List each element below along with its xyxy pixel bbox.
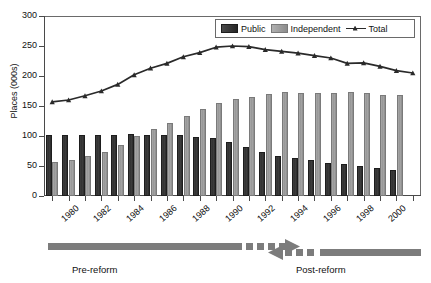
x-tick-1994 <box>298 196 299 201</box>
x-tick-label-1994: 1994 <box>288 203 310 224</box>
legend-line-total-icon <box>346 25 366 33</box>
pre-reform-dash-3 <box>268 243 275 250</box>
x-tick-1992 <box>265 196 266 201</box>
pre-reform-label: Pre-reform <box>72 264 117 275</box>
legend-item-public: Public <box>221 24 266 34</box>
x-tick-label-1980: 1980 <box>59 203 81 224</box>
x-tick-1998 <box>364 196 365 201</box>
y-tick-label: 200 <box>22 70 37 81</box>
x-tick-1983 <box>118 196 119 201</box>
x-tick-1986 <box>167 196 168 201</box>
x-tick-1995 <box>314 196 315 201</box>
legend-label-independent: Independent <box>291 24 341 34</box>
x-tick-1980 <box>69 196 70 201</box>
x-tick-1982 <box>101 196 102 201</box>
x-tick-label-1998: 1998 <box>354 203 376 224</box>
pre-reform-dash-2 <box>257 243 264 250</box>
x-tick-1984 <box>134 196 135 201</box>
total-line-layer <box>44 16 421 196</box>
x-tick-label-1992: 1992 <box>255 203 277 224</box>
x-tick-label-1986: 1986 <box>157 203 179 224</box>
y-tick-label: 100 <box>22 130 37 141</box>
x-tick-1996 <box>331 196 332 201</box>
chart-figure: Places (000s) 050100150200250300 1980198… <box>0 0 431 283</box>
pre-reform-dash-4 <box>279 243 285 250</box>
post-reform-solid-bar <box>320 249 421 256</box>
x-tick-1979 <box>52 196 53 201</box>
y-tick-label: 300 <box>22 10 37 21</box>
x-tick-1985 <box>151 196 152 201</box>
pre-reform-arrowhead-icon <box>285 239 300 254</box>
y-tick-label: 50 <box>27 160 37 171</box>
x-tick-1987 <box>183 196 184 201</box>
pre-reform-solid-bar <box>48 243 242 250</box>
total-line-svg <box>44 16 421 196</box>
x-tick-2000 <box>396 196 397 201</box>
legend-item-total: Total <box>346 24 388 34</box>
post-reform-dash-2 <box>296 249 303 256</box>
x-tick-label-1996: 1996 <box>321 203 343 224</box>
y-axis-title: Places (000s) <box>9 46 19 136</box>
legend-swatch-independent-icon <box>271 24 288 33</box>
x-tick-label-1982: 1982 <box>91 203 113 224</box>
x-tick-2001 <box>413 196 414 201</box>
total-line-path <box>52 46 413 102</box>
post-reform-dash-3 <box>307 249 314 256</box>
x-tick-1993 <box>282 196 283 201</box>
x-tick-label-1990: 1990 <box>223 203 245 224</box>
x-tick-1989 <box>216 196 217 201</box>
x-tick-1990 <box>233 196 234 201</box>
y-tick-label: 0 <box>32 190 37 201</box>
x-tick-label-1984: 1984 <box>124 203 146 224</box>
post-reform-dash-1 <box>285 249 292 256</box>
pre-reform-dash-1 <box>246 243 253 250</box>
chart-legend: Public Independent Total <box>215 19 415 38</box>
x-tick-1997 <box>347 196 348 201</box>
x-tick-1988 <box>200 196 201 201</box>
x-tick-label-1988: 1988 <box>190 203 212 224</box>
legend-label-public: Public <box>241 24 266 34</box>
legend-swatch-public-icon <box>221 24 238 33</box>
post-reform-label: Post-reform <box>296 264 346 275</box>
y-tick-label: 250 <box>22 40 37 51</box>
x-tick-1991 <box>249 196 250 201</box>
x-tick-1999 <box>380 196 381 201</box>
x-tick-label-2000: 2000 <box>387 203 409 224</box>
legend-item-independent: Independent <box>271 24 341 34</box>
x-tick-1981 <box>85 196 86 201</box>
legend-label-total: Total <box>369 24 388 34</box>
y-tick-label: 150 <box>22 100 37 111</box>
post-reform-arrowhead-icon <box>268 245 283 260</box>
